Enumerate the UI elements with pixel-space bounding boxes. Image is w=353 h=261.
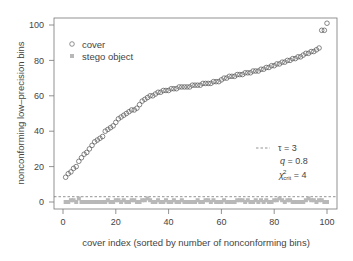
annotation-q: q = 0.8: [280, 156, 308, 166]
y-tick-labels: 020406080100: [29, 20, 44, 207]
legend-stego-marker-icon: [70, 54, 74, 58]
y-tick-label: 40: [34, 126, 44, 136]
y-axis: [49, 25, 54, 202]
x-axis-label: cover index (sorted by number of nonconf…: [82, 237, 310, 248]
y-axis-label: nonconforming low–precision bins: [15, 41, 26, 184]
x-axis: [63, 209, 327, 214]
legend: cover stego object: [70, 39, 134, 63]
y-tick-label: 100: [29, 20, 44, 30]
x-tick-label: 60: [216, 217, 226, 227]
legend-stego-label: stego object: [82, 51, 134, 62]
x-tick-label: 100: [319, 217, 334, 227]
annotation-chi: χ2crit = 4: [278, 169, 307, 181]
parameter-annotations: τ = 3 q = 0.8 χ2crit = 4: [256, 143, 308, 181]
stego-point: [77, 196, 81, 200]
scatter-chart: 020406080100 020406080100 cover stego ob…: [0, 0, 353, 261]
y-tick-label: 0: [39, 197, 44, 207]
stego-series: [64, 196, 329, 204]
x-tick-label: 80: [269, 217, 279, 227]
legend-cover-marker-icon: [70, 42, 75, 47]
y-tick-label: 20: [34, 162, 44, 172]
cover-point: [325, 21, 330, 26]
chi-value: = 4: [291, 170, 306, 180]
stego-point: [325, 200, 329, 204]
legend-cover-label: cover: [82, 39, 105, 50]
annotation-tau: τ = 3: [278, 143, 297, 153]
x-tick-label: 0: [60, 217, 65, 227]
y-tick-label: 80: [34, 56, 44, 66]
q-value: = 0.8: [285, 156, 308, 166]
x-tick-labels: 020406080100: [60, 217, 334, 227]
stego-point: [74, 200, 78, 204]
x-tick-label: 40: [164, 217, 174, 227]
y-tick-label: 60: [34, 91, 44, 101]
x-tick-label: 20: [111, 217, 121, 227]
